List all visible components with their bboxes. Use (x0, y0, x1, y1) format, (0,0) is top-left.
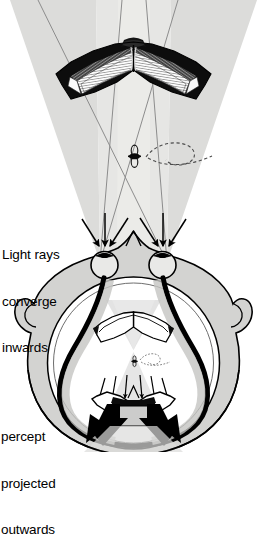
label-percept-projected-outwards: percept projected outwards (1, 398, 56, 538)
label-line: percept (1, 429, 56, 445)
label-line: Light rays (2, 247, 60, 263)
eye-left (91, 252, 118, 279)
label-line: inwards (2, 340, 60, 356)
label-line: outwards (1, 522, 56, 538)
label-line: converge (2, 294, 60, 310)
eye-right (149, 252, 176, 279)
label-line: projected (1, 476, 56, 492)
label-light-rays-converge-inwards: Light rays converge inwards (2, 216, 60, 387)
